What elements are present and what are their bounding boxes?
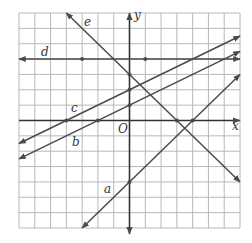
point-on-line-a [128, 180, 132, 184]
coordinate-graph: x y O a b c d e [0, 0, 252, 243]
point-on-line-b [96, 119, 100, 123]
point-on-line-d [80, 57, 84, 61]
line-e [66, 13, 240, 182]
point-on-line-c [64, 119, 68, 123]
y-axis-label: y [133, 8, 141, 22]
point-on-line-e [175, 119, 179, 123]
point-on-line-e [128, 72, 132, 76]
line-label-b: b [72, 135, 80, 149]
labels: x y O a b c d e [41, 8, 239, 196]
line-label-c: c [71, 101, 78, 115]
point-on-line-a [191, 119, 195, 123]
origin-label: O [118, 122, 128, 136]
x-axis-label: x [232, 119, 239, 133]
line-label-a: a [104, 182, 111, 196]
axes [19, 13, 240, 234]
point-on-line-d [143, 57, 147, 61]
line-label-d: d [41, 45, 49, 59]
point-on-line-b [128, 103, 132, 107]
point-on-line-c [128, 88, 132, 92]
line-label-e: e [84, 15, 91, 29]
